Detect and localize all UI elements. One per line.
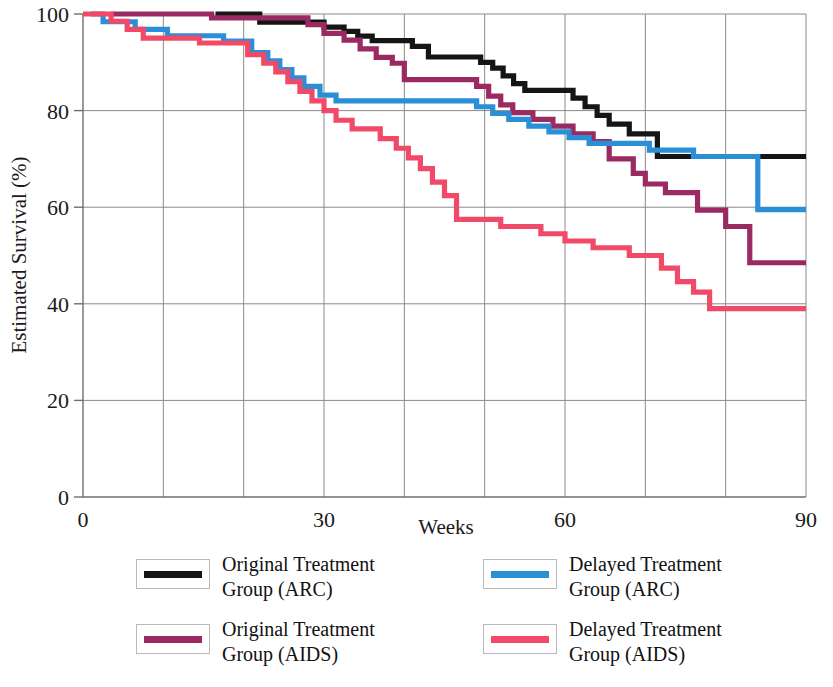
legend-item-delayed-arc[interactable]: Delayed Treatment Group (ARC) [483,552,722,602]
legend-swatch-original-arc [136,559,210,589]
y-tick-label: 80 [47,99,69,124]
chart-legend: Original Treatment Group (ARC) Delayed T… [0,548,833,687]
y-axis-label: Estimated Survival (%) [7,156,31,353]
y-tick-label: 40 [47,292,69,317]
legend-item-delayed-aids[interactable]: Delayed Treatment Group (AIDS) [483,617,722,667]
legend-line-original-aids [144,636,202,643]
legend-line-delayed-arc [491,571,549,578]
y-tick-label: 100 [36,2,69,27]
legend-label-delayed-arc: Delayed Treatment Group (ARC) [569,552,722,602]
legend-label-delayed-aids: Delayed Treatment Group (AIDS) [569,617,722,667]
axis-ticks [74,14,83,497]
x-tick-label: 90 [795,507,817,532]
series-layer [83,14,806,309]
y-tick-label: 20 [47,388,69,413]
legend-line-original-arc [144,571,202,578]
legend-swatch-original-aids [136,624,210,654]
x-axis-label: Weeks [418,515,473,539]
plot-frame [83,14,806,497]
legend-label-original-aids: Original Treatment Group (AIDS) [222,617,375,667]
series-original-aids [111,14,806,263]
legend-swatch-delayed-aids [483,624,557,654]
legend-item-original-aids[interactable]: Original Treatment Group (AIDS) [136,617,375,667]
survival-chart: 0204060801000306090 Estimated Survival (… [0,0,833,540]
y-tick-label: 0 [58,485,69,510]
x-tick-label: 60 [554,507,576,532]
legend-item-original-arc[interactable]: Original Treatment Group (ARC) [136,552,375,602]
legend-label-original-arc: Original Treatment Group (ARC) [222,552,375,602]
y-tick-label: 60 [47,195,69,220]
x-tick-label: 0 [78,507,89,532]
chart-page: 0204060801000306090 Estimated Survival (… [0,0,833,687]
legend-line-delayed-aids [491,636,549,643]
chart-canvas: 0204060801000306090 Estimated Survival (… [0,0,833,540]
gridlines [83,14,806,497]
x-tick-label: 30 [313,507,335,532]
legend-swatch-delayed-arc [483,559,557,589]
